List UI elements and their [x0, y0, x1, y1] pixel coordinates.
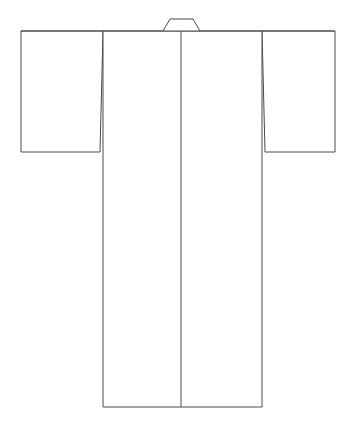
left-sleeve-shape: [21, 31, 103, 152]
collar-shape: [163, 19, 200, 31]
body-shape: [103, 31, 262, 407]
drawing-canvas: [0, 0, 356, 423]
kimono-illustration: [0, 0, 356, 423]
right-sleeve-shape: [262, 31, 335, 152]
